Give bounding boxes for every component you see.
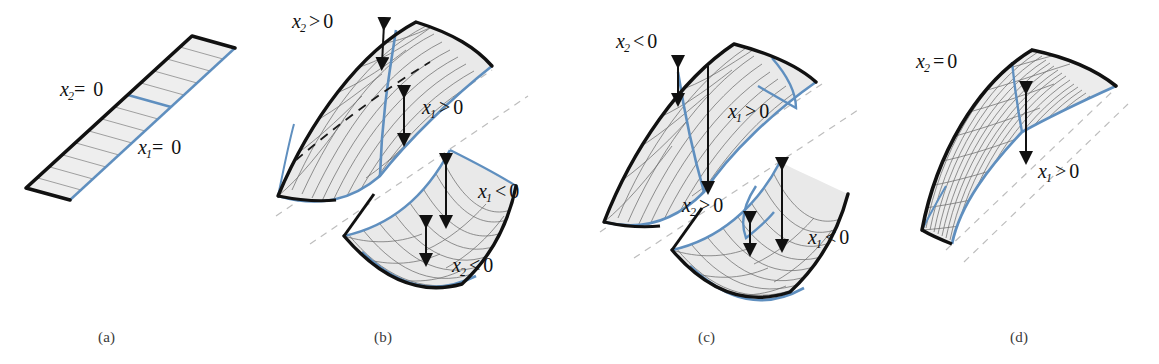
label-op: >: [699, 194, 710, 216]
label-x1-negative: x1<0: [478, 180, 519, 206]
label-sub: 1: [736, 111, 742, 125]
label-sub: 1: [430, 107, 436, 121]
label-value: 0: [647, 30, 657, 52]
label-value: 0: [1069, 160, 1079, 182]
label-value: 0: [509, 180, 519, 202]
label-sub: 1: [1046, 171, 1052, 185]
label-op: >: [1055, 160, 1066, 182]
label-x1-positive: x1>0: [422, 96, 463, 122]
label-x1-positive: x1>0: [728, 100, 769, 126]
panel-b-graphic: [240, 0, 570, 320]
label-op: >: [439, 96, 450, 118]
label-value: 0: [93, 78, 103, 100]
panel-d: x2=0 x1>0: [880, 0, 1159, 364]
label-x2-zero: x2=0: [60, 78, 103, 104]
panel-c-graphic: [560, 0, 900, 320]
label-x2-negative: x2<0: [616, 30, 657, 56]
label-x2-positive: x2>0: [682, 194, 723, 220]
label-op: =: [74, 78, 85, 100]
label-x1-negative: x1<0: [808, 226, 849, 252]
label-sub: 1: [816, 237, 822, 251]
label-op: <: [825, 226, 836, 248]
label-op: >: [309, 10, 320, 32]
panel-d-graphic: [880, 0, 1159, 320]
label-value: 0: [323, 10, 333, 32]
label-value: 0: [839, 226, 849, 248]
label-sub: 1: [486, 191, 492, 205]
label-sub: 2: [68, 89, 74, 103]
label-op: <: [633, 30, 644, 52]
label-value: 0: [713, 194, 723, 216]
label-sub: 2: [624, 41, 630, 55]
label-x1-zero: x1=0: [138, 136, 181, 162]
label-x2-zero: x2=0: [916, 50, 957, 76]
caption-b: (b): [374, 329, 392, 346]
caption-c: (c): [698, 329, 715, 346]
panel-c: x2<0 x1>0 x2>0 x1<0: [560, 0, 900, 364]
figure-canvas: x2=0 x1=0: [0, 0, 1159, 364]
strip-surface: [26, 36, 235, 200]
label-op: <: [469, 254, 480, 276]
label-sub: 1: [146, 147, 152, 161]
label-op: >: [745, 100, 756, 122]
label-value: 0: [947, 50, 957, 72]
label-value: 0: [171, 136, 181, 158]
label-x2-positive: x2>0: [292, 10, 333, 36]
label-op: =: [152, 136, 163, 158]
label-value: 0: [483, 254, 493, 276]
label-sub: 2: [460, 265, 466, 279]
label-sub: 2: [690, 205, 696, 219]
label-value: 0: [759, 100, 769, 122]
label-op: =: [933, 50, 944, 72]
label-sub: 2: [300, 21, 306, 35]
label-op: <: [495, 180, 506, 202]
label-sub: 2: [924, 61, 930, 75]
panel-b: x2>0 x1>0 x1<0 x2<0: [240, 0, 570, 364]
label-value: 0: [453, 96, 463, 118]
label-x2-negative: x2<0: [452, 254, 493, 280]
label-x1-positive: x1>0: [1038, 160, 1079, 186]
caption-a: (a): [98, 329, 115, 346]
caption-d: (d): [1010, 329, 1028, 346]
